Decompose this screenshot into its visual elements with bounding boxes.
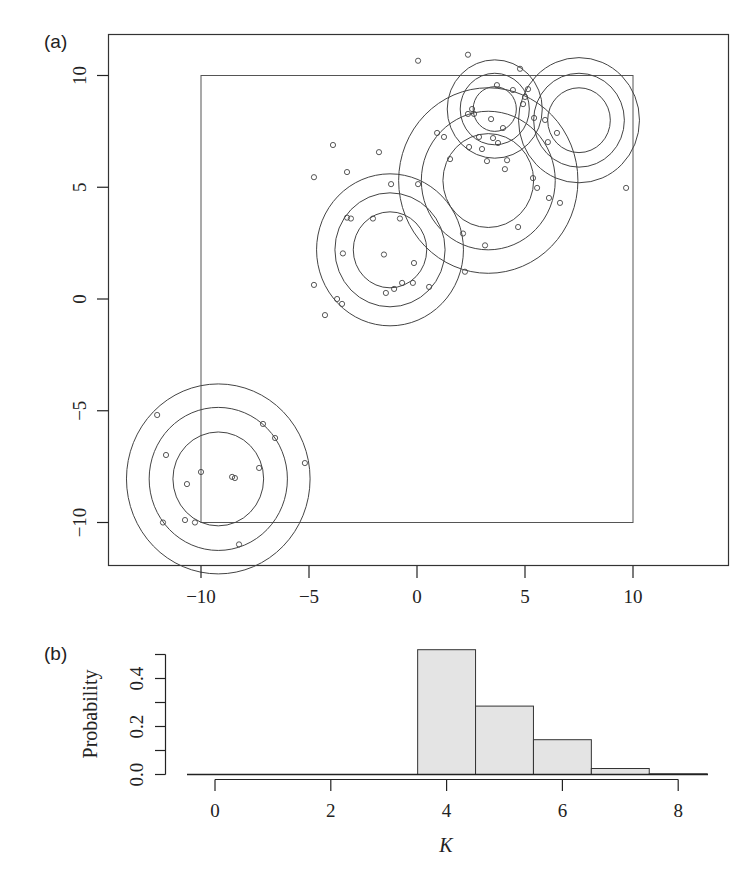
data-point [383,290,388,295]
figure: (a) (b) −10−50510 −10−50510 02468 0.00.2… [0,0,752,872]
y-tick-label: −5 [69,401,90,421]
x-tick-label: −5 [299,586,319,607]
data-point [370,216,375,221]
data-point [163,452,168,457]
x-tick-label: 10 [624,586,643,607]
panel-a-label: (a) [44,31,67,52]
data-point [155,412,160,417]
data-point [557,200,562,205]
inner-rectangle [201,76,633,523]
y-tick-label: 0 [69,294,90,304]
data-point [488,116,493,121]
data-point [302,460,307,465]
panel-b-label: (b) [44,643,67,664]
data-point [376,150,381,155]
cluster-circle [173,432,264,526]
data-point [479,146,484,151]
k-axis: 02468 [210,780,683,822]
k-tick-label: 2 [326,800,336,821]
data-point [339,301,344,306]
data-point [426,284,431,289]
x-tick-label: 5 [520,586,530,607]
data-point [184,481,189,486]
cluster-circle [443,134,534,228]
y-tick-label: 10 [69,66,90,85]
cluster-circle [548,88,611,153]
data-point [623,185,628,190]
data-point [381,252,386,257]
y-tick-label: 5 [69,183,90,193]
x-tick-label: 0 [412,586,422,607]
data-point [411,260,416,265]
histogram-plot: 02468 0.00.20.4 K Probability [79,650,708,856]
data-point [236,542,241,547]
k-tick-label: 0 [210,800,220,821]
k-tick-label: 6 [558,800,568,821]
data-point [388,182,393,187]
cluster-circle [126,384,310,574]
cluster-circles [126,58,639,574]
data-point [482,243,487,248]
inner-box [201,76,633,523]
data-point [515,224,520,229]
k-tick-label: 4 [442,800,452,821]
cluster-circle [353,212,426,288]
data-point [415,182,420,187]
data-points [155,52,629,547]
x-tick-label: −10 [186,586,216,607]
probability-tick-label: 0.2 [126,715,147,739]
histogram-bar [591,769,649,775]
histogram-bar [533,740,591,775]
data-point [441,134,446,139]
data-point [311,282,316,287]
histogram-bar [418,650,476,775]
data-point [542,117,547,122]
data-point [554,130,559,135]
data-point [410,280,415,285]
data-point [340,251,345,256]
data-point [490,135,495,140]
cluster-circle [149,407,287,550]
data-point [466,144,471,149]
histogram-bars [418,650,708,775]
y-tick-label: −10 [69,508,90,538]
data-point [460,231,465,236]
cluster-circle [447,60,542,158]
x-axis-label: K [438,834,454,856]
data-point [322,312,327,317]
data-point [257,465,262,470]
data-point [484,159,489,164]
data-point [469,106,474,111]
probability-axis: 0.00.20.4 [126,655,166,787]
data-point [545,140,550,145]
data-point [330,142,335,147]
scatter-plot: −10−50510 −10−50510 [69,35,729,608]
data-point [397,216,402,221]
data-point [311,175,316,180]
data-point [546,195,551,200]
y-axis-label: Probability [79,670,102,759]
data-point [334,296,339,301]
cluster-circle [399,88,578,274]
data-point [502,167,507,172]
cluster-circle [473,87,516,132]
y-axis: −10−50510 [69,66,109,537]
data-point [476,134,481,139]
x-axis: −10−50510 [186,566,642,607]
data-point [399,280,404,285]
data-point [182,517,187,522]
data-point [344,169,349,174]
cluster-circle [519,58,640,183]
data-point [434,130,439,135]
data-point [520,102,525,107]
data-point [192,520,197,525]
probability-tick-label: 0.4 [126,666,147,690]
cluster-circle [317,174,464,326]
data-point [534,185,539,190]
probability-tick-label: 0.0 [126,763,147,787]
data-point [465,52,470,57]
k-tick-label: 8 [673,800,683,821]
histogram-bar [476,706,534,774]
data-point [415,58,420,63]
data-point [504,158,509,163]
